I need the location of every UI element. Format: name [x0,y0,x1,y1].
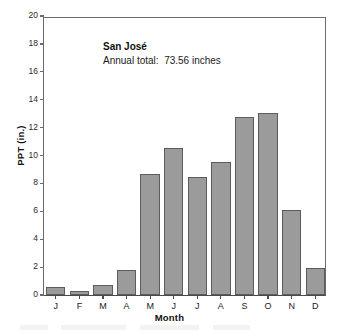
x-tick-label: F [69,301,89,311]
bar [117,270,136,295]
bar [93,285,112,295]
x-tick-label: S [234,301,254,311]
bar [140,174,159,295]
x-tick-label: O [258,301,278,311]
bar [46,287,65,295]
precipitation-bar-chart: PPT (in.) San José Annual total: 73.56 i… [0,0,339,331]
x-axis-label: Month [0,312,339,323]
x-tick-mark [173,295,174,299]
page-artifact [20,325,250,330]
bar [211,162,230,295]
x-tick-label: J [164,301,184,311]
y-tick-label: 8 [33,177,38,187]
y-axis-label: PPT (in.) [15,106,26,186]
x-tick-mark [102,295,103,299]
bar [235,117,254,295]
x-tick-mark [291,295,292,299]
x-tick-mark [55,295,56,299]
x-tick-mark [315,295,316,299]
bar [188,177,207,295]
y-tick-label: 0 [33,289,38,299]
x-tick-mark [220,295,221,299]
x-tick-label: M [140,301,160,311]
x-tick-label: N [282,301,302,311]
bar [164,148,183,295]
x-tick-mark [79,295,80,299]
y-tick-label: 6 [33,205,38,215]
x-tick-mark [197,295,198,299]
y-tick-label: 16 [29,66,38,76]
plot-area: San José Annual total: 73.56 inches 0246… [43,17,326,296]
y-tick-label: 14 [29,94,38,104]
x-tick-label: J [187,301,207,311]
y-tick-label: 2 [33,261,38,271]
x-tick-label: M [93,301,113,311]
x-tick-mark [244,295,245,299]
x-tick-label: A [211,301,231,311]
x-tick-label: D [305,301,325,311]
y-tick-mark [40,15,44,16]
x-tick-label: A [117,301,137,311]
y-tick-label: 20 [29,10,38,20]
x-tick-label: J [46,301,66,311]
x-tick-mark [150,295,151,299]
x-tick-mark [267,295,268,299]
y-tick-label: 18 [29,38,38,48]
bar [306,268,325,295]
y-tick-label: 12 [29,122,38,132]
y-tick-label: 4 [33,233,38,243]
bar-series [44,18,325,295]
bar [282,210,301,295]
bar [258,113,277,295]
bar [70,291,89,295]
x-tick-mark [126,295,127,299]
y-tick-label: 10 [29,150,38,160]
